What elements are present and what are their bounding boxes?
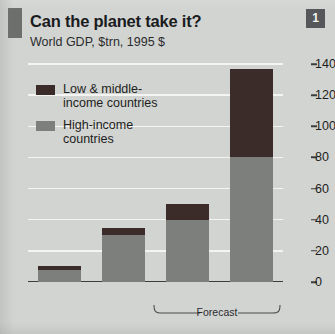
bar-segment-low-middle-income-1960 xyxy=(38,266,81,269)
legend-label-high: High-income countries xyxy=(63,118,168,146)
ytick-label-140: 140 xyxy=(315,57,335,71)
bar-segment-high-income-2015 xyxy=(166,220,209,282)
forecast-label: Forecast xyxy=(152,306,282,318)
bar-1960 xyxy=(38,266,81,282)
legend-swatch-low_middle xyxy=(36,85,55,95)
bar-segment-low-middle-income-2015 xyxy=(166,204,209,220)
bar-2050 xyxy=(230,69,273,282)
chart-subtitle: World GDP, $trn, 1995 $ xyxy=(30,35,165,49)
figure-number-badge: 1 xyxy=(306,9,325,28)
bar-segment-low-middle-income-2050 xyxy=(230,69,273,158)
ytick-label-80: 80 xyxy=(315,150,329,164)
bar-segment-high-income-1960 xyxy=(38,270,81,282)
ytick-label-40: 40 xyxy=(315,213,329,227)
forecast-bracket: Forecast xyxy=(152,304,282,324)
ytick-label-120: 120 xyxy=(315,88,335,102)
bar-segment-high-income-2050 xyxy=(230,157,273,282)
ytick-label-0: 0 xyxy=(315,275,322,289)
legend-swatch-high xyxy=(36,121,55,131)
bar-2000 xyxy=(102,228,145,283)
ytick-label-100: 100 xyxy=(315,119,335,133)
bar-segment-high-income-2000 xyxy=(102,235,145,282)
legend-label-low_middle: Low & middle-income countries xyxy=(63,82,168,110)
chart-figure: 1 Can the planet take it? World GDP, $tr… xyxy=(0,0,335,334)
bar-2015 xyxy=(166,204,209,282)
chart-title: Can the planet take it? xyxy=(30,12,201,31)
bar-segment-low-middle-income-2000 xyxy=(102,228,145,236)
ytick-label-20: 20 xyxy=(315,244,329,258)
legend-item-high: High-income countries xyxy=(36,118,168,146)
tab-marker xyxy=(8,8,22,38)
gridline-140 xyxy=(28,63,283,65)
chart-legend: Low & middle-income countriesHigh-income… xyxy=(36,82,168,154)
ytick-label-60: 60 xyxy=(315,182,329,196)
legend-item-low_middle: Low & middle-income countries xyxy=(36,82,168,110)
